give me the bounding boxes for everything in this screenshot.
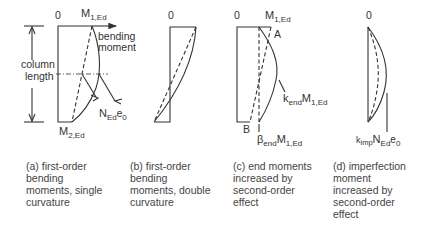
second-order-moment-curve-d — [368, 27, 386, 122]
imperfection-label-a: NEde0 — [99, 107, 127, 122]
caption-a: (a) first-order bending moments, single … — [26, 160, 102, 208]
k-end-label: kendM1,Ed — [283, 92, 328, 107]
dimension-label-length: length — [25, 70, 54, 82]
zero-label-a: 0 — [55, 9, 61, 21]
bottom-moment-label-a: M2,Ed — [59, 125, 85, 140]
column-outline-c — [237, 27, 271, 122]
k-imp-label: kimpNEde0 — [356, 133, 401, 148]
first-order-moment-line-b — [154, 27, 196, 122]
k-end-leader — [279, 80, 285, 92]
leader-line-1 — [82, 74, 96, 97]
point-b-label: B — [243, 123, 250, 135]
caption-c: (c) end moments increased by second-orde… — [233, 160, 312, 208]
zero-label-b: 0 — [168, 9, 174, 21]
point-a-label: A — [274, 28, 281, 40]
panel-c: 0 M1,Ed A B kendM1,Ed βendM1,Ed — [234, 9, 328, 148]
top-moment-label-c: M1,Ed — [265, 9, 291, 24]
beta-end-label: βendM1,Ed — [257, 133, 302, 148]
zero-label-d: 0 — [366, 9, 372, 21]
zero-label-c: 0 — [234, 9, 240, 21]
top-moment-label-a: M1,Ed — [81, 7, 107, 22]
dimension-label-column: column — [21, 58, 55, 70]
imperfection-arrow-2-icon — [115, 99, 122, 104]
second-order-moment-curve-c — [259, 27, 277, 122]
panel-b: 0 — [154, 9, 196, 122]
axis-label-moment: moment — [98, 41, 136, 53]
caption-d: (d) imperfection moment increased by sec… — [333, 160, 406, 220]
panel-d: 0 kimpNEde0 — [356, 9, 401, 148]
leader-line-2 — [99, 74, 115, 101]
panel-a: column length 0 M1,Ed bending moment NEd… — [21, 7, 136, 140]
caption-b: (b) first-order bending moments, double … — [130, 160, 211, 208]
